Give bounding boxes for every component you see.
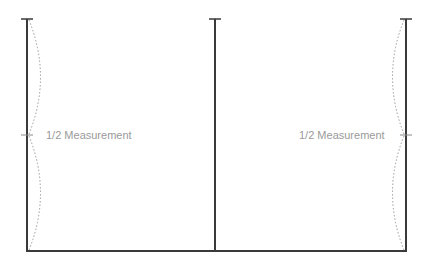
left-upper-arc <box>29 20 41 134</box>
right-half-measurement-label: 1/2 Measurement <box>299 129 385 141</box>
left-post <box>21 19 33 251</box>
right-upper-arc <box>393 20 405 134</box>
right-lower-arc <box>393 136 405 250</box>
right-post <box>400 19 412 251</box>
middle-post <box>209 19 221 251</box>
left-lower-arc <box>29 136 41 250</box>
left-half-measurement-label: 1/2 Measurement <box>46 129 132 141</box>
